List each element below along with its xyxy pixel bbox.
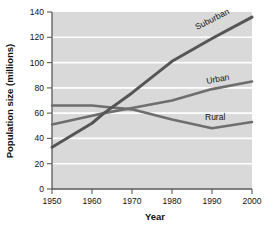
y-tick-label: 40 xyxy=(35,133,45,143)
x-tick-label: 1950 xyxy=(43,196,62,206)
y-tick-label: 20 xyxy=(35,159,45,169)
population-line-chart: 0 20 40 60 80 100 120 140 1950 1960 1970… xyxy=(0,0,268,228)
y-axis-title: Population size (millions) xyxy=(4,44,15,159)
y-tick-label: 100 xyxy=(30,58,44,68)
y-tick-label: 80 xyxy=(35,83,45,93)
series-label-rural: Rural xyxy=(205,112,225,122)
y-tick-label: 0 xyxy=(39,184,44,194)
y-tick-labels: 0 20 40 60 80 100 120 140 xyxy=(30,7,44,194)
x-tick-labels: 1950 1960 1970 1980 1990 2000 xyxy=(43,196,262,206)
y-tick-label: 60 xyxy=(35,108,45,118)
chart-figure: 0 20 40 60 80 100 120 140 1950 1960 1970… xyxy=(0,0,268,228)
y-tick-label: 120 xyxy=(30,32,44,42)
x-tick-label: 1970 xyxy=(123,196,142,206)
y-tick-label: 140 xyxy=(30,7,44,17)
y-axis-ticks xyxy=(47,12,52,189)
x-tick-label: 1990 xyxy=(203,196,222,206)
plot-area-background xyxy=(52,12,252,189)
x-axis-ticks xyxy=(52,189,252,194)
x-axis-title: Year xyxy=(145,211,165,222)
x-tick-label: 1960 xyxy=(83,196,102,206)
x-tick-label: 1980 xyxy=(163,196,182,206)
x-tick-label: 2000 xyxy=(243,196,262,206)
